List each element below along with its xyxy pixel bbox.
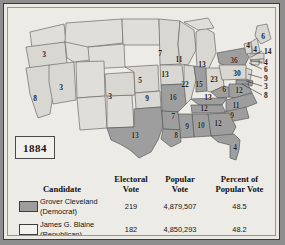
popular-vote-cell: 4,850,293 [154, 225, 206, 234]
state-vote-label: 36 [230, 56, 238, 65]
state-vote-label: 7 [171, 112, 175, 121]
callout-vote-label: 8 [264, 91, 268, 100]
legend-swatch-cell [16, 224, 40, 235]
state-vote-label: 13 [131, 131, 139, 140]
state-vote-label: 10 [197, 121, 205, 130]
state-vote-label: 23 [210, 75, 218, 84]
state-vote-label: 6 [222, 85, 226, 94]
territory-utah [76, 61, 105, 98]
state-vote-label: 3 [42, 50, 46, 59]
header-electoral-vote: Electoral Vote [108, 175, 154, 194]
state-vote-label: 4 [233, 143, 237, 152]
state-vote-label: 7 [158, 49, 162, 58]
state-vote-label: 13 [161, 70, 169, 79]
state-vote-label: 30 [233, 69, 241, 78]
state-vote-label: 5 [138, 76, 142, 85]
figure-plate: .rep{fill:#d9d7d1;stroke:#6a6a6a;stroke-… [3, 3, 280, 240]
state-vote-label: 8 [174, 131, 178, 140]
table-row: James G. Blaine (Republican) 182 4,850,2… [16, 219, 273, 236]
state-vote-label: 3 [59, 83, 63, 92]
callout-vote-label: 6 [264, 65, 268, 74]
state-tennessee [191, 105, 226, 113]
state-vote-label: 12 [200, 104, 208, 113]
header-percent-popular-vote: Percent of Popular Vote [206, 175, 273, 194]
state-vote-label: 9 [230, 111, 234, 120]
callout-vote-label: 3 [264, 82, 268, 91]
header-popular-vote: Popular Vote [154, 175, 206, 194]
republican-color-swatch [19, 224, 38, 235]
state-vote-label: 3 [108, 92, 112, 101]
table-header-row: Candidate Electoral Vote Popular Vote Pe… [16, 168, 273, 194]
democrat-color-swatch [19, 201, 38, 212]
percent-cell: 48.5 [206, 202, 273, 211]
state-vote-label: 22 [181, 80, 189, 89]
state-vote-label: 11 [232, 101, 239, 110]
figure-inner-border: .rep{fill:#d9d7d1;stroke:#6a6a6a;stroke-… [7, 7, 276, 236]
state-vote-label: 13 [204, 93, 212, 102]
state-vote-label: 4 [253, 45, 257, 54]
state-vote-label: 12 [235, 86, 243, 95]
state-vote-label: 9 [145, 94, 149, 103]
year-badge: 1884 [15, 136, 55, 159]
territory-montana [65, 19, 123, 47]
year-label: 1884 [23, 142, 47, 154]
percent-cell: 48.2 [206, 225, 273, 234]
state-vote-label: 15 [195, 80, 203, 89]
state-vote-label: 4 [246, 41, 250, 50]
state-vote-label: 8 [33, 94, 37, 103]
electoral-vote-cell: 219 [108, 202, 154, 211]
electoral-vote-cell: 182 [108, 225, 154, 234]
state-vote-label: 6 [261, 32, 265, 41]
state-vote-label: 11 [175, 55, 182, 64]
territory-dakota [122, 19, 160, 45]
territory-arizona [77, 96, 107, 130]
image-frame: .rep{fill:#d9d7d1;stroke:#6a6a6a;stroke-… [0, 0, 285, 245]
callout-vote-label: 14 [264, 47, 272, 56]
state-vote-label: 12 [214, 119, 222, 128]
candidate-name-cell: James G. Blaine (Republican) [40, 220, 108, 236]
header-candidate: Candidate [16, 185, 108, 194]
results-table: Candidate Electoral Vote Popular Vote Pe… [16, 168, 273, 236]
legend-swatch-cell [16, 201, 40, 212]
popular-vote-cell: 4,879,507 [154, 202, 206, 211]
state-vote-label: 9 [185, 122, 189, 131]
candidate-name-cell: Grover Cleveland (Democrat) [40, 197, 108, 215]
state-vote-label: 16 [169, 93, 177, 102]
state-vote-label: 13 [198, 60, 206, 69]
table-row: Grover Cleveland (Democrat) 219 4,879,50… [16, 196, 273, 217]
